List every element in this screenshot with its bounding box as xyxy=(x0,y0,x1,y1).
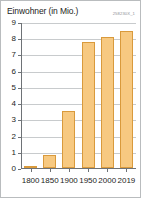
bar-2019 xyxy=(120,31,133,168)
bar-2000 xyxy=(101,37,114,168)
y-tick-label: 4 xyxy=(12,100,16,108)
y-tick-mark xyxy=(18,72,21,73)
y-tick-label: 8 xyxy=(12,35,16,43)
x-tick-mark xyxy=(126,169,127,172)
gridline xyxy=(21,39,136,40)
plot-area xyxy=(21,23,136,169)
gridline xyxy=(21,120,136,121)
y-tick-label: 2 xyxy=(12,133,16,141)
y-axis-labels: 0123456789 xyxy=(1,23,16,169)
gridline xyxy=(21,137,136,138)
gridline xyxy=(21,72,136,73)
bar-1850 xyxy=(43,155,56,168)
y-tick-mark xyxy=(18,169,21,170)
y-tick-mark xyxy=(18,39,21,40)
x-tick-label: 1800 xyxy=(22,177,40,185)
y-tick-mark xyxy=(18,137,21,138)
y-tick-mark xyxy=(18,88,21,89)
gridline xyxy=(21,104,136,105)
x-tick-mark xyxy=(69,169,70,172)
y-tick-mark xyxy=(18,120,21,121)
gridline xyxy=(21,23,136,24)
y-tick-mark xyxy=(18,55,21,56)
x-tick-label: 2000 xyxy=(98,177,116,185)
y-tick-label: 7 xyxy=(12,51,16,59)
x-axis-labels: 180018501900195020002019 xyxy=(21,177,136,189)
y-axis-line xyxy=(21,23,22,169)
gridline xyxy=(21,88,136,89)
y-tick-label: 0 xyxy=(12,165,16,173)
bar-1900 xyxy=(62,111,75,168)
x-tick-mark xyxy=(88,169,89,172)
x-tick-mark xyxy=(31,169,32,172)
y-tick-label: 3 xyxy=(12,116,16,124)
y-tick-mark xyxy=(18,153,21,154)
x-tick-label: 2019 xyxy=(118,177,136,185)
x-axis-line xyxy=(21,168,136,169)
x-tick-label: 1950 xyxy=(79,177,97,185)
chart-card: Einwohner (in Mio.) 258230X_1 0123456789… xyxy=(0,0,141,198)
chart-title: Einwohner (in Mio.) xyxy=(7,6,78,16)
y-tick-label: 9 xyxy=(12,19,16,27)
y-tick-mark xyxy=(18,23,21,24)
bar-1950 xyxy=(82,42,95,168)
x-tick-label: 1850 xyxy=(41,177,59,185)
y-tick-mark xyxy=(18,104,21,105)
gridline xyxy=(21,55,136,56)
gridline xyxy=(21,153,136,154)
x-tick-label: 1900 xyxy=(60,177,78,185)
y-tick-label: 6 xyxy=(12,68,16,76)
chart-code-label: 258230X_1 xyxy=(113,11,135,16)
y-tick-label: 1 xyxy=(12,149,16,157)
y-tick-label: 5 xyxy=(12,84,16,92)
x-tick-mark xyxy=(107,169,108,172)
x-tick-mark xyxy=(50,169,51,172)
